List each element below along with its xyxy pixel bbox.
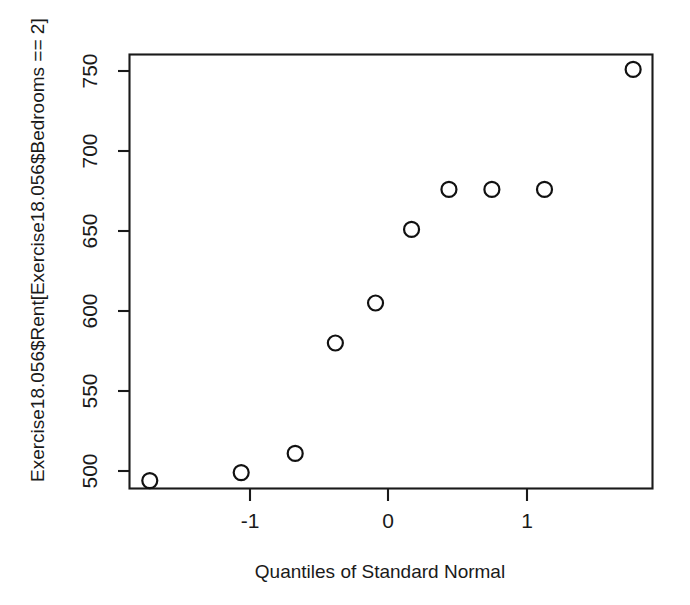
y-tick-label-500: 500 (78, 453, 101, 488)
x-tick-label-0: 0 (382, 509, 394, 532)
plot-canvas: Exercise18.056$Rent[Exercise18.056$Bedro… (0, 0, 690, 605)
data-point (441, 182, 456, 197)
y-tick-label-600: 600 (78, 293, 101, 328)
x-axis-tick-marks (250, 489, 527, 501)
qq-plot-figure: Exercise18.056$Rent[Exercise18.056$Bedro… (0, 0, 690, 605)
data-point (368, 296, 383, 311)
data-points-layer (142, 62, 640, 488)
y-axis-tick-labels: 500 550 600 650 700 750 (78, 53, 101, 488)
data-point (328, 336, 343, 351)
x-axis-tick-labels: -1 0 1 (241, 509, 533, 532)
data-point (404, 222, 419, 237)
x-tick-label-neg1: -1 (241, 509, 260, 532)
y-tick-label-550: 550 (78, 373, 101, 408)
y-tick-label-700: 700 (78, 133, 101, 168)
data-point (142, 473, 157, 488)
x-tick-label-1: 1 (521, 509, 533, 532)
data-point (288, 446, 303, 461)
data-point (537, 182, 552, 197)
data-point (234, 465, 249, 480)
plot-frame (130, 55, 653, 489)
data-point (626, 62, 641, 77)
data-point (484, 182, 499, 197)
y-tick-label-650: 650 (78, 213, 101, 248)
y-axis-tick-marks (118, 71, 130, 471)
y-tick-label-750: 750 (78, 53, 101, 88)
y-axis-title: Exercise18.056$Rent[Exercise18.056$Bedro… (27, 18, 48, 482)
x-axis-title: Quantiles of Standard Normal (255, 561, 505, 582)
